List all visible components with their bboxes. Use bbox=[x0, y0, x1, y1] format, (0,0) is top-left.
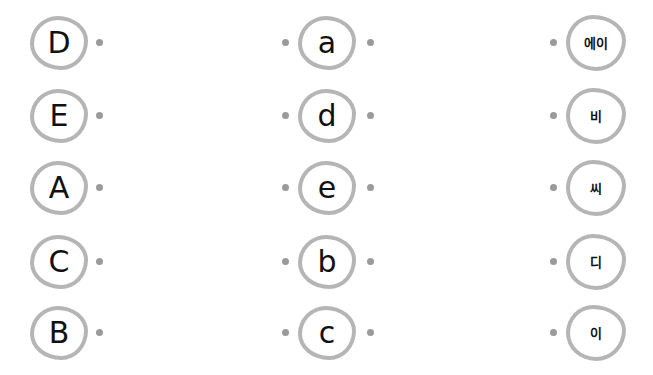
korean-letter-name: 에이 bbox=[584, 37, 608, 50]
lowercase-letter-circle[interactable]: e bbox=[298, 161, 356, 215]
lowercase-letter: c bbox=[319, 318, 336, 348]
uppercase-right-dot[interactable] bbox=[96, 112, 103, 119]
lowercase-right-dot[interactable] bbox=[367, 112, 374, 119]
lowercase-letter-circle[interactable]: a bbox=[298, 16, 356, 70]
lowercase-letter: d bbox=[317, 101, 336, 131]
uppercase-right-dot[interactable] bbox=[96, 258, 103, 265]
lowercase-letter-circle[interactable]: b bbox=[298, 235, 356, 289]
korean-name-circle[interactable]: 에이 bbox=[566, 15, 626, 71]
uppercase-letter-circle[interactable]: D bbox=[30, 16, 88, 70]
korean-letter-name: 씨 bbox=[590, 182, 602, 195]
uppercase-letter: B bbox=[49, 318, 70, 348]
uppercase-letter-circle[interactable]: A bbox=[30, 161, 88, 215]
lowercase-left-dot[interactable] bbox=[282, 184, 289, 191]
lowercase-left-dot[interactable] bbox=[282, 258, 289, 265]
uppercase-letter-circle[interactable]: C bbox=[30, 235, 88, 289]
lowercase-letter-circle[interactable]: d bbox=[298, 89, 356, 143]
lowercase-letter: a bbox=[318, 28, 336, 58]
uppercase-letter-circle[interactable]: B bbox=[30, 306, 88, 360]
korean-left-dot[interactable] bbox=[550, 112, 557, 119]
lowercase-right-dot[interactable] bbox=[367, 329, 374, 336]
korean-letter-name: 비 bbox=[590, 110, 602, 123]
lowercase-letter-circle[interactable]: c bbox=[298, 306, 356, 360]
korean-left-dot[interactable] bbox=[550, 258, 557, 265]
uppercase-letter-circle[interactable]: E bbox=[30, 89, 88, 143]
korean-left-dot[interactable] bbox=[550, 39, 557, 46]
lowercase-letter: b bbox=[317, 247, 336, 277]
lowercase-right-dot[interactable] bbox=[367, 39, 374, 46]
korean-name-circle[interactable]: 씨 bbox=[566, 160, 626, 216]
uppercase-right-dot[interactable] bbox=[96, 329, 103, 336]
lowercase-left-dot[interactable] bbox=[282, 39, 289, 46]
uppercase-letter: D bbox=[47, 28, 70, 58]
lowercase-right-dot[interactable] bbox=[367, 184, 374, 191]
korean-letter-name: 이 bbox=[590, 327, 602, 340]
lowercase-letter: e bbox=[318, 173, 336, 203]
korean-name-circle[interactable]: 비 bbox=[566, 88, 626, 144]
korean-name-circle[interactable]: 이 bbox=[566, 305, 626, 361]
uppercase-right-dot[interactable] bbox=[96, 184, 103, 191]
uppercase-letter: E bbox=[50, 101, 69, 131]
lowercase-left-dot[interactable] bbox=[282, 112, 289, 119]
korean-letter-name: 디 bbox=[590, 256, 602, 269]
korean-left-dot[interactable] bbox=[550, 329, 557, 336]
korean-left-dot[interactable] bbox=[550, 184, 557, 191]
uppercase-right-dot[interactable] bbox=[96, 39, 103, 46]
uppercase-letter: A bbox=[49, 173, 70, 203]
uppercase-letter: C bbox=[49, 247, 70, 277]
lowercase-left-dot[interactable] bbox=[282, 329, 289, 336]
korean-name-circle[interactable]: 디 bbox=[566, 234, 626, 290]
lowercase-right-dot[interactable] bbox=[367, 258, 374, 265]
